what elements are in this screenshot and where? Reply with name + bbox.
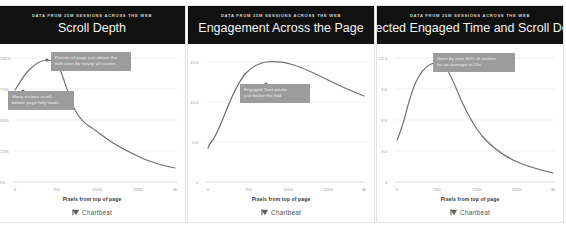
panel-title: Engagement Across the Page <box>198 20 363 36</box>
x-axis-title: Pixels from top of page <box>188 196 374 202</box>
y-tick-label: 15.0 <box>190 60 199 65</box>
x-tick-label: 750 <box>52 187 60 192</box>
y-tick-label: 50% <box>0 118 9 123</box>
x-tick-label: 2250 <box>323 187 333 192</box>
panel-header: DATA FROM 25M SESSIONS ACROSS THE WEB Sc… <box>0 6 185 44</box>
x-tick-label: 1500 <box>92 187 102 192</box>
plot-area-scroll-depth: 100% 75% 50% 25% 0% 0 750 1500 2250 3k <box>0 44 185 222</box>
chartbeat-brand: Chartbeat <box>0 209 185 216</box>
brand-name: Chartbeat <box>460 209 490 216</box>
x-tick-label: 3k <box>551 187 556 192</box>
chartbeat-brand: Chartbeat <box>377 209 563 216</box>
x-tick-label: 750 <box>433 187 441 192</box>
y-tick-label: 0 <box>385 180 388 185</box>
chart-deck: DATA FROM 25M SESSIONS ACROSS THE WEB Sc… <box>0 0 566 226</box>
x-tick-label: 3k <box>173 187 178 192</box>
x-tick-labels: 0 750 1500 2250 3k <box>14 187 178 192</box>
panel-title: Expected Engaged Time and Scroll Depth <box>376 20 564 36</box>
y-tick-labels: 100% 75% 50% 25% 0% <box>0 56 11 185</box>
annotation-early-scroll: Many visitors scroll before page fully l… <box>8 91 74 110</box>
y-tick-label: 10.0 <box>190 100 199 105</box>
chart-panel-engagement-across-page: DATA FROM 25M SESSIONS ACROSS THE WEB En… <box>187 5 375 223</box>
annotation-above-fold: Portion of page just above the fold seen… <box>51 52 131 71</box>
x-axis-title: Pixels from top of page <box>377 196 563 202</box>
panel-kicker: DATA FROM 25M SESSIONS ACROSS THE WEB <box>221 12 341 19</box>
brand-name: Chartbeat <box>271 209 301 216</box>
annotation-seen-80pct: Seen by over 80% of visitors for an aver… <box>433 53 515 72</box>
annotation-line: for an average of 15s <box>437 62 511 68</box>
chart-panel-expected-engaged-time: DATA FROM 25M SESSIONS ACROSS THE WEB Ex… <box>376 5 564 223</box>
x-tick-label: 750 <box>244 187 252 192</box>
annotation-engaged-peak: Engaged Time peaks just below the fold <box>240 84 310 103</box>
annotation-line: fold seen by nearly all visitors <box>55 61 127 67</box>
y-tick-label: 9.0 <box>381 87 388 92</box>
panel-header: DATA FROM 25M SESSIONS ACROSS THE WEB En… <box>188 6 374 44</box>
annotation-line: just below the fold <box>244 93 306 99</box>
y-tick-label: 12.0 <box>379 56 388 61</box>
y-tick-label: 3.0 <box>381 149 388 154</box>
y-tick-label: 5.0 <box>192 140 199 145</box>
y-tick-label: 25% <box>0 149 9 154</box>
x-tick-label: 2250 <box>512 187 522 192</box>
x-tick-label: 1500 <box>283 187 293 192</box>
x-tick-label: 0 <box>396 187 399 192</box>
y-tick-label: 0% <box>0 180 5 185</box>
x-tick-label: 2250 <box>133 187 143 192</box>
annotation-line: before page fully loads <box>12 100 70 106</box>
x-tick-label: 3k <box>362 187 367 192</box>
data-line <box>15 60 175 168</box>
y-tick-label: 6.0 <box>381 118 388 123</box>
chartbeat-flag-icon <box>450 209 458 216</box>
panel-header: DATA FROM 25M SESSIONS ACROSS THE WEB Ex… <box>377 6 563 44</box>
y-tick-label: 0 <box>196 180 199 185</box>
y-tick-labels: 12.0 9.0 6.0 3.0 0 <box>379 56 388 185</box>
plot-area-engagement: 15.0 10.0 5.0 0 0 750 1500 2250 3k Engag… <box>188 44 374 222</box>
gridlines <box>395 58 555 151</box>
chartbeat-flag-icon <box>72 209 80 216</box>
chartbeat-flag-icon <box>261 209 269 216</box>
annotation-anchor-dot <box>45 58 48 61</box>
y-tick-label: 100% <box>0 56 11 61</box>
panel-title: Scroll Depth <box>58 20 126 36</box>
panel-kicker: DATA FROM 25M SESSIONS ACROSS THE WEB <box>410 12 530 19</box>
chartbeat-brand: Chartbeat <box>188 209 374 216</box>
y-tick-labels: 15.0 10.0 5.0 0 <box>190 60 199 185</box>
x-tick-label: 0 <box>14 187 17 192</box>
data-line <box>397 63 553 173</box>
data-line <box>208 62 364 148</box>
x-tick-label: 1500 <box>472 187 482 192</box>
panel-kicker: DATA FROM 25M SESSIONS ACROSS THE WEB <box>32 12 152 19</box>
x-tick-label: 0 <box>207 187 210 192</box>
x-tick-labels: 0 750 1500 2250 3k <box>396 187 556 192</box>
brand-name: Chartbeat <box>82 209 112 216</box>
x-tick-labels: 0 750 1500 2250 3k <box>207 187 367 192</box>
x-axis-title: Pixels from top of page <box>0 196 185 202</box>
plot-area-expected-engaged-time: 12.0 9.0 6.0 3.0 0 0 750 1500 2250 3k Se… <box>377 44 563 222</box>
chart-panel-scroll-depth: DATA FROM 25M SESSIONS ACROSS THE WEB Sc… <box>0 5 186 223</box>
